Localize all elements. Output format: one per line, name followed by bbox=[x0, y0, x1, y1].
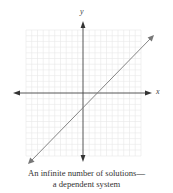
caption-line-1: An infinite number of solutions— bbox=[0, 168, 173, 178]
x-axis-right-arrow-icon bbox=[145, 91, 152, 96]
y-axis-label: y bbox=[80, 7, 84, 16]
x-axis-label: x bbox=[156, 87, 160, 96]
y-axis-top-arrow-icon bbox=[81, 21, 86, 28]
dependent-system-graph: y x An infinite number of solutions— a d… bbox=[0, 0, 173, 193]
y-axis bbox=[81, 21, 86, 162]
coordinate-plane bbox=[0, 0, 173, 193]
caption-line-2: a dependent system bbox=[0, 179, 173, 189]
x-axis bbox=[13, 91, 152, 96]
x-axis-left-arrow-icon bbox=[13, 91, 20, 96]
y-axis-bottom-arrow-icon bbox=[81, 155, 86, 162]
